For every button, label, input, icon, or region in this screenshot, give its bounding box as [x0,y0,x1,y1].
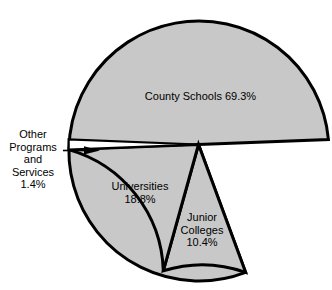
pie-chart: 1978-79 County Schools 69.3% Universitie… [0,0,332,290]
slice-label-other-programs: Other Programs and Services 1.4% [0,128,66,191]
slice-label-county-schools: County Schools 69.3% [118,90,283,103]
slice-label-universities: Universities 18.8% [85,180,195,205]
slice-label-junior-colleges: Junior Colleges 10.4% [163,211,241,249]
